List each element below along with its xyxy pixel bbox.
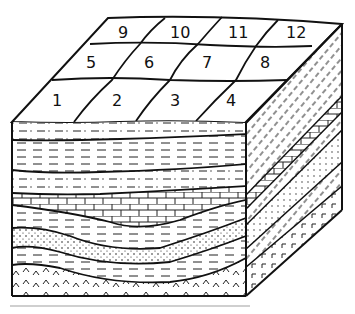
cell-label-6: 6 — [144, 53, 154, 72]
cell-label-7: 7 — [202, 53, 212, 72]
front-face-strata — [12, 120, 246, 296]
cell-label-10: 10 — [170, 23, 190, 42]
cell-label-12: 12 — [286, 23, 306, 42]
cell-label-5: 5 — [86, 53, 96, 72]
cell-label-11: 11 — [228, 23, 248, 42]
figure-caption — [10, 303, 250, 309]
cell-label-3: 3 — [170, 91, 180, 110]
block-diagram-svg: 9 10 11 12 5 6 7 8 1 2 3 4 — [0, 0, 355, 314]
cell-label-2: 2 — [112, 91, 122, 110]
cell-label-4: 4 — [226, 91, 236, 110]
cell-label-8: 8 — [260, 53, 270, 72]
cell-label-9: 9 — [118, 23, 128, 42]
block-diagram: 9 10 11 12 5 6 7 8 1 2 3 4 — [0, 0, 355, 314]
cell-label-1: 1 — [52, 91, 62, 110]
